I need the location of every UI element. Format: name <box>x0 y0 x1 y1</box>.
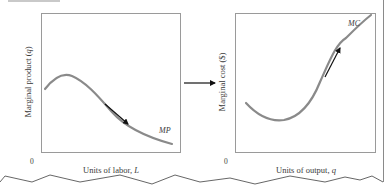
mc-y-axis-label: Marginal cost ($) <box>217 52 227 111</box>
mp-decline-arrow <box>105 104 128 124</box>
mc-curve-label: MC <box>347 19 361 28</box>
mc-x-axis-label: Units of output, q <box>276 165 337 175</box>
mc-origin-label: 0 <box>224 157 228 166</box>
mp-mc-figure: Marginal product (q) 0 Units of labor, L… <box>0 0 388 190</box>
torn-edge <box>0 175 383 184</box>
marginal-product-chart: Marginal product (q) 0 Units of labor, L… <box>23 14 181 176</box>
mp-y-axis-label: Marginal product (q) <box>23 46 33 117</box>
mc-rise-arrow <box>325 48 340 77</box>
cropped-caption-fragment <box>8 0 60 2</box>
mc-curve <box>246 15 371 120</box>
marginal-cost-chart: Marginal cost ($) 0 Units of output, q M… <box>217 14 376 176</box>
mp-x-axis-label: Units of labor, L <box>83 165 139 175</box>
mp-curve-label: MP <box>158 126 171 135</box>
mp-origin-label: 0 <box>30 157 34 166</box>
mc-chart-frame <box>236 14 376 153</box>
mp-curve <box>45 75 172 144</box>
